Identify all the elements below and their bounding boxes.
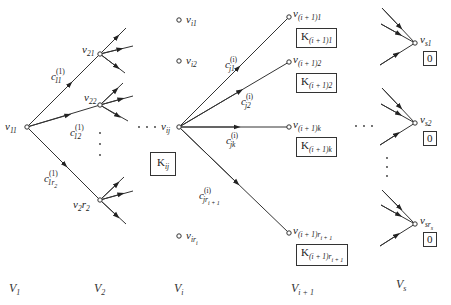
edge-label-cjr: c(i)jri + 1 xyxy=(199,187,220,206)
edge-label-cj1: c(i)j1 xyxy=(225,56,235,73)
label-vs1: vs1 xyxy=(420,34,432,48)
label-vnextk: v(i + 1)k xyxy=(293,119,321,133)
label-vsrs: vsrs xyxy=(420,215,433,231)
cost-box-ks1: 0 xyxy=(423,51,437,66)
edge-label-c11: c(1)11 xyxy=(51,68,62,85)
label-v21: v21 xyxy=(82,44,94,58)
label-vi1: vi1 xyxy=(186,14,197,28)
label-v11: v11 xyxy=(5,121,17,135)
node-vnext2 xyxy=(287,60,291,64)
node-vi2 xyxy=(177,59,181,63)
label-vij: vij xyxy=(161,121,170,135)
node-vij xyxy=(177,125,181,129)
label-v22: v22 xyxy=(84,92,96,106)
column-label-vi-plus-1: Vi + 1 xyxy=(291,281,314,297)
node-v11 xyxy=(25,125,29,129)
edge-label-cjk: c(i)jk xyxy=(226,132,235,149)
edge-label-c12: c(1)12 xyxy=(70,124,81,141)
label-vs2: vs2 xyxy=(420,114,432,128)
label-vnext1: v(i + 1)1 xyxy=(293,8,321,22)
node-v22 xyxy=(98,103,102,107)
node-vs1 xyxy=(413,41,417,45)
column-label-vi: Vi xyxy=(174,281,184,297)
column-label-v2: V2 xyxy=(94,281,105,297)
column-label-vs: Vs xyxy=(396,277,406,293)
edge-label-c1r2: c(1)1r2 xyxy=(44,170,57,189)
label-vi2: vi2 xyxy=(186,55,197,69)
node-vnextk xyxy=(287,125,291,129)
cost-box-ks2: 0 xyxy=(423,131,437,146)
cost-box-knext2: K(i + 1)2 xyxy=(296,73,337,93)
node-viri xyxy=(177,234,181,238)
label-vnextr: v(i + 1)ri + 1 xyxy=(293,225,332,241)
cost-box-knextk: K(i + 1)k xyxy=(296,137,337,157)
cost-box-kij: Kij xyxy=(150,152,176,176)
graph-edges xyxy=(0,0,451,305)
edge-label-cj2: c(i)j2 xyxy=(241,93,251,110)
node-v21 xyxy=(98,52,102,56)
cost-box-knextr: K(i + 1)ri + 1 xyxy=(296,244,348,266)
label-viri: viri xyxy=(186,230,198,246)
node-vsrs xyxy=(413,222,417,226)
node-vnext1 xyxy=(287,15,291,19)
node-vnextr xyxy=(287,231,291,235)
label-vnext2: v(i + 1)2 xyxy=(293,54,321,68)
node-v2r2 xyxy=(98,198,102,202)
node-vi1 xyxy=(177,18,181,22)
node-vs2 xyxy=(413,121,417,125)
column-label-v1: V1 xyxy=(9,281,20,297)
label-v2r2: v2r2 xyxy=(73,199,90,213)
cost-box-ksrs: 0 xyxy=(423,232,437,247)
cost-box-knext1: K(i + 1)1 xyxy=(296,28,337,48)
